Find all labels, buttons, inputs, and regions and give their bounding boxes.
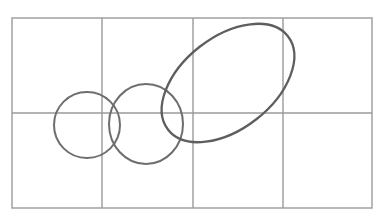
shapes [54, 0, 316, 166]
grid [12, 18, 372, 208]
left-circle [54, 92, 120, 158]
tilted-ellipse [140, 0, 316, 166]
sketch-canvas [0, 0, 383, 219]
